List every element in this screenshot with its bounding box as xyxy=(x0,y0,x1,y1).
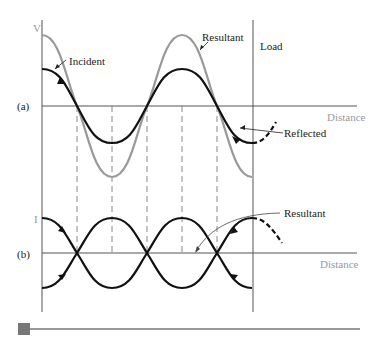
reflected-label: Reflected xyxy=(284,128,326,139)
distance-label-b: Distance xyxy=(320,259,358,270)
panel-b-label: (b) xyxy=(17,249,30,260)
y-axis-label-v: V xyxy=(33,23,41,34)
distance-label-a: Distance xyxy=(327,112,365,123)
incident-label: Incident xyxy=(69,56,105,67)
resultant-label-b: Resultant xyxy=(284,208,326,219)
resultant-label-a: Resultant xyxy=(202,32,244,43)
load-label: Load xyxy=(260,41,283,52)
standing-wave-diagram xyxy=(0,0,377,337)
panel-a-label: (a) xyxy=(17,101,29,112)
node-guides xyxy=(77,106,217,253)
reflected-curve-b xyxy=(252,218,282,243)
scrollbar-thumb[interactable] xyxy=(18,323,30,335)
reflected-curve-a xyxy=(252,122,276,143)
y-axis-label-i: I xyxy=(34,214,38,225)
